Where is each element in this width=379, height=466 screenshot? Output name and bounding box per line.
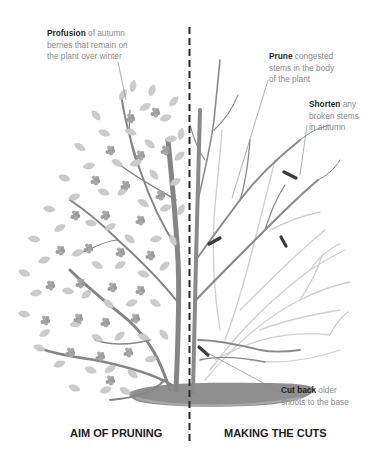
- annotation-prune-bold: Prune: [269, 51, 293, 61]
- caption-making-the-cuts: MAKING THE CUTS: [224, 427, 327, 439]
- annotation-profusion-line3: the plant over winter: [47, 51, 128, 63]
- annotation-profusion-line2: berries that remain on: [47, 40, 128, 52]
- annotation-shorten: Shorten any broken stems in autumn: [309, 99, 359, 134]
- annotation-profusion-line1: of autumn: [86, 28, 125, 38]
- annotation-profusion: Profusion of autumn berries that remain …: [47, 28, 128, 63]
- annotation-profusion-bold: Profusion: [47, 28, 86, 38]
- annotation-shorten-line2: broken stems: [309, 111, 359, 123]
- annotation-prune-line3: of the plant: [269, 74, 334, 86]
- left-bush: [18, 80, 187, 400]
- cut-mark-shorten: [284, 172, 296, 178]
- annotation-prune: Prune congested stems in the body of the…: [269, 51, 334, 86]
- annotation-cutback: Cut back older shoots to the base: [281, 385, 349, 408]
- annotation-cutback-line1: older: [316, 385, 337, 395]
- annotation-prune-line1: congested: [293, 51, 334, 61]
- annotation-cutback-line2: shoots to the base: [281, 397, 349, 409]
- annotation-cutback-bold: Cut back: [281, 385, 316, 395]
- cut-mark-cutback: [199, 347, 208, 355]
- annotation-shorten-line1: any: [340, 99, 356, 109]
- leader-shorten: [300, 125, 307, 175]
- annotation-prune-line2: stems in the body: [269, 63, 334, 75]
- annotation-shorten-bold: Shorten: [309, 99, 340, 109]
- caption-aim-of-pruning: AIM OF PRUNING: [70, 427, 162, 439]
- annotation-shorten-line3: in autumn: [309, 122, 359, 134]
- cut-mark-upper-right: [281, 237, 286, 246]
